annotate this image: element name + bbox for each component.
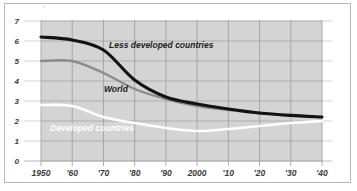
y-tick-label: 7 <box>15 17 20 26</box>
y-tick-label: 6 <box>15 37 20 46</box>
x-tick-label: '80 <box>129 168 141 178</box>
fertility-rate-chart: + 01234567 1950'60'70'80'902000'10'20'30… <box>0 0 357 191</box>
y-tick-label: 0 <box>15 157 20 166</box>
chart-canvas: + 01234567 1950'60'70'80'902000'10'20'30… <box>0 0 357 191</box>
x-tick-label: '90 <box>160 168 172 178</box>
x-axis-tick-labels: 1950'60'70'80'902000'10'20'30'40 <box>32 168 328 178</box>
x-tick-label: '70 <box>98 168 110 178</box>
x-tick-label: '60 <box>66 168 78 178</box>
screenshot-root: + 01234567 1950'60'70'80'902000'10'20'30… <box>0 0 357 191</box>
y-tick-label: 5 <box>15 57 20 66</box>
x-tick-label: '40 <box>316 168 328 178</box>
x-tick-label: 1950 <box>32 168 51 178</box>
series-label-less-developed: Less developed countries <box>109 40 214 50</box>
x-tick-label: '30 <box>285 168 297 178</box>
x-tick-label: 2000 <box>187 168 207 178</box>
y-tick-label: 2 <box>14 117 20 126</box>
y-axis-tick-labels: 01234567 <box>14 17 20 166</box>
series-label-developed: Developed countries <box>50 123 134 133</box>
top-artifact-mark: + <box>42 3 46 9</box>
y-tick-label: 4 <box>14 77 20 86</box>
x-tick-label: '10 <box>223 168 235 178</box>
y-tick-label: 3 <box>15 97 20 106</box>
x-tick-label: '20 <box>254 168 266 178</box>
y-tick-label: 1 <box>15 137 20 146</box>
series-label-world: World <box>104 84 129 94</box>
